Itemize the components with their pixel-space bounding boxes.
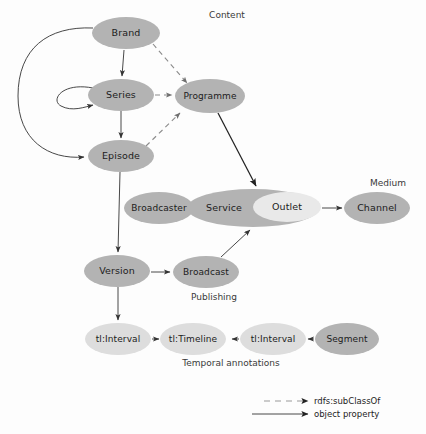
- ontology-diagram: Brand Series Programme Episode Broadcast…: [0, 0, 426, 434]
- node-outlet[interactable]: Outlet: [253, 192, 321, 222]
- group-label-content: Content: [209, 10, 245, 20]
- node-interval-right[interactable]: tl:Interval: [240, 323, 306, 355]
- edge-series-self: [57, 87, 93, 109]
- node-interval-right-label: tl:Interval: [251, 334, 296, 344]
- node-series[interactable]: Series: [88, 79, 154, 111]
- node-broadcaster[interactable]: Broadcaster: [124, 192, 194, 224]
- node-timeline-label: tl:Timeline: [169, 334, 218, 344]
- node-brand[interactable]: Brand: [92, 17, 160, 49]
- node-version[interactable]: Version: [84, 255, 150, 287]
- group-label-medium: Medium: [370, 178, 406, 188]
- node-channel-label: Channel: [357, 202, 397, 213]
- node-brand-label: Brand: [112, 27, 141, 38]
- edge-layer: [18, 28, 342, 339]
- edge-brand-series: [122, 50, 124, 76]
- group-label-publishing: Publishing: [191, 292, 237, 302]
- edge-episode-version: [118, 172, 120, 252]
- node-programme[interactable]: Programme: [175, 79, 245, 113]
- legend-subclassof-label: rdfs:subClassOf: [314, 396, 381, 406]
- node-channel[interactable]: Channel: [344, 192, 410, 224]
- edge-brand-episode: [18, 28, 93, 157]
- node-service-label: Service: [206, 202, 242, 213]
- edge-broadcast-service: [221, 230, 250, 257]
- legend: rdfs:subClassOf object property: [252, 396, 381, 419]
- group-label-layer: Content Medium Publishing Temporal annot…: [181, 10, 406, 368]
- node-segment[interactable]: Segment: [315, 323, 379, 355]
- node-series-label: Series: [106, 89, 136, 100]
- node-episode[interactable]: Episode: [88, 140, 154, 172]
- node-segment-label: Segment: [326, 334, 368, 344]
- node-interval-left[interactable]: tl:Interval: [85, 323, 151, 355]
- node-version-label: Version: [99, 265, 135, 276]
- edge-episode-programme: [146, 113, 180, 146]
- node-broadcast[interactable]: Broadcast: [173, 256, 239, 288]
- node-broadcaster-label: Broadcaster: [131, 203, 187, 213]
- node-programme-label: Programme: [183, 91, 237, 101]
- edge-programme-outlet: [218, 113, 256, 186]
- node-outlet-label: Outlet: [272, 201, 302, 212]
- node-broadcast-label: Broadcast: [183, 267, 229, 277]
- edge-brand-programme: [153, 44, 187, 83]
- node-episode-label: Episode: [102, 150, 140, 161]
- diagram-canvas: Brand Series Programme Episode Broadcast…: [0, 0, 426, 434]
- node-layer: Brand Series Programme Episode Broadcast…: [84, 17, 410, 355]
- node-interval-left-label: tl:Interval: [96, 334, 141, 344]
- group-label-temporal: Temporal annotations: [181, 358, 280, 368]
- legend-objectproperty-label: object property: [314, 409, 379, 419]
- node-timeline[interactable]: tl:Timeline: [160, 323, 226, 355]
